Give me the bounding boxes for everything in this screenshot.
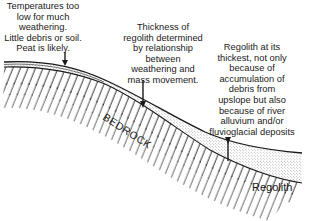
annotation-line: weathering. xyxy=(0,22,86,33)
annotation-line: low for much xyxy=(0,12,86,23)
annotation-line: debris from xyxy=(196,84,308,95)
annotation-line: thickest, not only xyxy=(196,53,308,64)
annotation-line: fluvioglacial deposits xyxy=(196,127,308,138)
annotation-line: because of river xyxy=(196,106,308,117)
annotation-line: alluvium and/or xyxy=(196,116,308,127)
annotation-line: because of xyxy=(196,63,308,74)
annotation-line: accumulation of xyxy=(196,74,308,85)
annotation-line: Temperatures too xyxy=(0,1,86,12)
annotation-line: Thickness of xyxy=(108,22,218,33)
annotation-valley: Regolith at its thickest, not only becau… xyxy=(196,42,308,137)
annotation-line: Little debris or soil. xyxy=(0,33,86,44)
annotation-summit: Temperatures too low for much weathering… xyxy=(0,1,86,54)
regolith-label: Regolith xyxy=(252,181,292,193)
annotation-line: upslope but also xyxy=(196,95,308,106)
annotation-line: Regolith at its xyxy=(196,42,308,53)
arrow-left xyxy=(62,52,68,66)
annotation-line: Peat is likely. xyxy=(0,43,86,54)
